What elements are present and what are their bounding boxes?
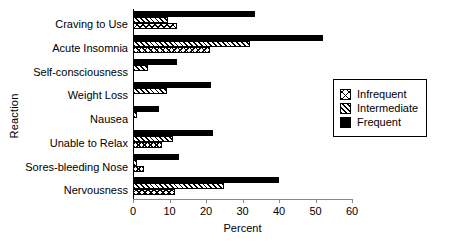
bar-infrequent xyxy=(133,189,175,195)
legend-item: Infrequent xyxy=(340,88,418,100)
category-label: Nausea xyxy=(90,113,128,125)
legend-swatch-frequent-icon xyxy=(340,117,351,128)
legend-swatch-infrequent-icon xyxy=(340,89,351,100)
x-axis-tick-label: 20 xyxy=(191,205,221,217)
x-axis-tick-label: 40 xyxy=(264,205,294,217)
y-axis-label: Reaction xyxy=(8,71,20,161)
x-axis-tick xyxy=(352,199,353,203)
legend-label: Intermediate xyxy=(357,102,418,114)
bar-chart: Reaction 0102030405060 Craving to UseAcu… xyxy=(0,0,463,247)
category-label: Self-consciousness xyxy=(33,66,128,78)
x-axis-tick-label: 10 xyxy=(155,205,185,217)
bar-group: Craving to Use xyxy=(133,11,352,35)
category-label: Acute Insomnia xyxy=(52,42,128,54)
bar-infrequent xyxy=(133,47,210,53)
x-axis-tick-label: 30 xyxy=(228,205,258,217)
legend-item: Frequent xyxy=(340,116,418,128)
category-label: Craving to Use xyxy=(55,18,128,30)
bar-group: Unable to Relax xyxy=(133,130,352,154)
bar-group: Sores-bleeding Nose xyxy=(133,154,352,178)
bar-infrequent xyxy=(133,23,177,29)
bar-group: Self-consciousness xyxy=(133,59,352,83)
bar-intermediate xyxy=(133,65,148,71)
bar-group: Acute Insomnia xyxy=(133,35,352,59)
x-axis-tick-label: 60 xyxy=(337,205,367,217)
category-label: Unable to Relax xyxy=(50,137,128,149)
legend-swatch-intermediate-icon xyxy=(340,103,351,114)
bar-infrequent xyxy=(133,166,144,172)
category-label: Nervousness xyxy=(64,184,128,196)
legend: Infrequent Intermediate Frequent xyxy=(333,79,427,137)
bar-frequent xyxy=(133,106,159,112)
category-label: Sores-bleeding Nose xyxy=(25,161,128,173)
legend-item: Intermediate xyxy=(340,102,418,114)
bar-frequent xyxy=(133,154,179,160)
bar-intermediate xyxy=(133,112,137,118)
legend-label: Frequent xyxy=(357,116,401,128)
category-label: Weight Loss xyxy=(68,89,128,101)
x-axis-label: Percent xyxy=(133,222,352,234)
bar-group: Weight Loss xyxy=(133,82,352,106)
bar-group: Nausea xyxy=(133,106,352,130)
x-axis-tick-label: 50 xyxy=(301,205,331,217)
bar-infrequent xyxy=(133,142,162,148)
x-axis-tick-label: 0 xyxy=(118,205,148,217)
bar-intermediate xyxy=(133,88,167,94)
plot-area: 0102030405060 Craving to UseAcute Insomn… xyxy=(133,9,352,199)
bar-group: Nervousness xyxy=(133,177,352,201)
legend-label: Infrequent xyxy=(357,88,407,100)
